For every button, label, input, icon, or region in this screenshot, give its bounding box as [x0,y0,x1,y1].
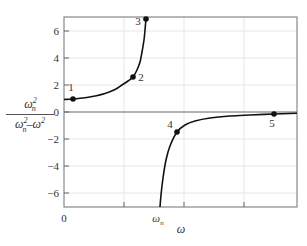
x-axis-label: ω [177,222,185,236]
x-tick-label: 0 [61,212,67,224]
y-tick-label: 2 [54,79,60,91]
y-tick-label: −2 [47,133,59,145]
point-label-1: 1 [68,81,74,93]
y-axis-label: ω2n ω2n–ω2 [2,96,58,134]
marked-point-2 [130,74,136,80]
y-tick-label: 6 [54,25,60,37]
curves [64,19,297,207]
marked-point-5 [271,111,277,117]
x-tick-label-omega-n: ωn [152,212,164,227]
y-label-denominator: ω2n–ω2 [2,115,58,133]
point-label-5: 5 [269,117,275,129]
point-label-2: 2 [138,71,144,83]
marked-point-4 [174,129,180,135]
marked-point-3 [143,16,149,22]
y-tick-label: −6 [47,187,59,199]
point-label-4: 4 [167,118,173,130]
x-axis-ticks: 0ωn [61,202,244,227]
marked-points: 12345 [68,15,277,135]
y-tick-label: −4 [47,160,59,172]
marked-point-1 [70,96,76,102]
y-label-numerator: ω2n [6,96,54,115]
point-label-3: 3 [135,15,141,27]
y-tick-label: 4 [54,52,60,64]
